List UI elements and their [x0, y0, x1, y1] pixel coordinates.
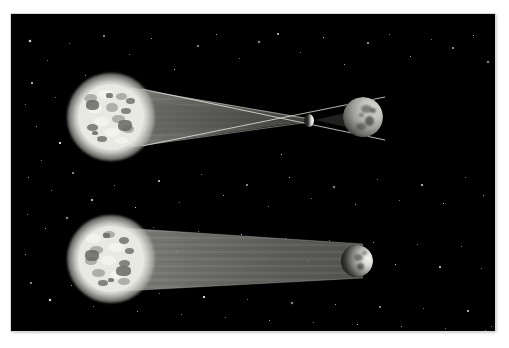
- star-photosphere: [78, 226, 144, 292]
- starspot-1: [85, 250, 99, 261]
- moon-lit-face: [343, 97, 383, 137]
- mare-5: [359, 113, 364, 117]
- partial-eclipse-scene: [11, 174, 495, 331]
- mare-2: [357, 263, 364, 270]
- starspot-4: [108, 278, 114, 282]
- moon-top: [343, 97, 383, 137]
- starspot-2: [118, 120, 132, 131]
- star-photosphere: [78, 84, 144, 150]
- starspot-4: [92, 131, 98, 135]
- moon-bottom: [341, 245, 373, 277]
- mare-1: [354, 254, 363, 261]
- star-bottom: [67, 215, 155, 303]
- total-eclipse-scene: [11, 14, 495, 174]
- sky-panel: [11, 14, 495, 331]
- moon-crescent-face: [341, 245, 373, 277]
- occulter-disc: [304, 114, 314, 127]
- mare-2: [365, 116, 374, 126]
- cone-edge-lower: [131, 122, 309, 147]
- mare-4: [370, 108, 376, 113]
- starspot-2: [116, 266, 131, 276]
- occulting-body: [304, 114, 314, 127]
- starspot-1: [86, 100, 99, 110]
- eclipse-diagram-figure: [0, 0, 509, 348]
- cone-edge-upper: [131, 88, 309, 119]
- star-top: [67, 73, 155, 161]
- starspot-3: [106, 93, 113, 98]
- mare-3: [356, 123, 366, 130]
- mare-3: [362, 251, 367, 255]
- starspot-3: [103, 233, 110, 238]
